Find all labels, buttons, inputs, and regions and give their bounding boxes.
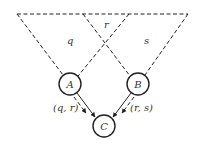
node-a: A <box>59 73 81 95</box>
cone-b-right-edge <box>145 14 188 75</box>
region-label-q: q <box>67 35 73 46</box>
edge-label-rs: (r, s) <box>130 102 153 113</box>
node-b: B <box>127 73 149 95</box>
region-label-s: s <box>144 35 149 46</box>
node-c: C <box>93 115 115 137</box>
cone-a-left-edge <box>17 14 63 75</box>
region-label-r: r <box>104 19 110 30</box>
node-b-label: B <box>133 79 141 90</box>
node-a-label: A <box>65 79 73 90</box>
diagram: q r s (q, r) (r, s) A B C <box>0 0 198 155</box>
edge-label-qr: (q, r) <box>53 102 78 113</box>
node-c-label: C <box>100 121 108 132</box>
